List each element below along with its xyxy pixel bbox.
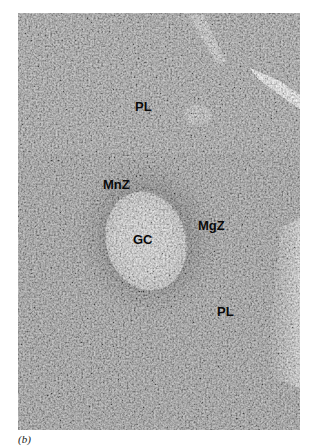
label-mantle-zone: MnZ [103, 178, 130, 191]
label-pl-top: PL [135, 100, 152, 113]
panel-caption: (b) [18, 433, 31, 445]
histology-micrograph: PL MnZ GC MgZ PL [18, 13, 300, 430]
tissue-texture [18, 13, 300, 430]
label-marginal-zone: MgZ [198, 219, 225, 232]
label-germinal-center: GC [133, 233, 153, 246]
label-pl-bottom: PL [217, 305, 234, 318]
